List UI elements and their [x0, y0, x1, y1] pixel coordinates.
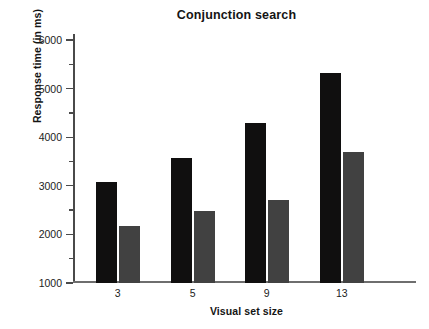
chart-figure: Conjunction search Response time (in ms)… — [0, 0, 429, 329]
y-tick-label: 1000 — [39, 277, 62, 289]
y-tick-major — [66, 88, 73, 89]
x-tick-label: 13 — [336, 287, 348, 299]
y-tick-label: 2000 — [39, 228, 62, 240]
y-tick-major — [66, 282, 73, 283]
bar — [96, 182, 117, 283]
y-tick-major — [66, 39, 73, 40]
x-tick-label: 9 — [264, 287, 270, 299]
y-tick-major — [66, 234, 73, 235]
y-tick-major — [66, 137, 73, 138]
bar — [343, 152, 364, 283]
y-tick-major — [66, 185, 73, 186]
y-tick-label: 6000 — [39, 34, 62, 46]
bar — [119, 226, 140, 283]
bar — [171, 158, 192, 283]
bar — [320, 73, 341, 283]
x-tick-label: 3 — [115, 287, 121, 299]
y-tick-label: 3000 — [39, 180, 62, 192]
x-tick-label: 5 — [190, 287, 196, 299]
x-axis-label: Visual set size — [72, 305, 421, 317]
y-tick-minor — [69, 112, 73, 113]
chart-title: Conjunction search — [0, 8, 429, 22]
bar — [194, 211, 215, 283]
y-tick-minor — [69, 64, 73, 65]
y-axis-line — [73, 34, 75, 283]
y-tick-minor — [69, 258, 73, 259]
bar — [245, 123, 266, 283]
y-tick-minor — [69, 161, 73, 162]
plot-area: 100020003000400050006000 — [73, 34, 416, 283]
y-tick-label: 5000 — [39, 83, 62, 95]
bar — [268, 200, 289, 283]
y-tick-label: 4000 — [39, 131, 62, 143]
y-tick-minor — [69, 209, 73, 210]
